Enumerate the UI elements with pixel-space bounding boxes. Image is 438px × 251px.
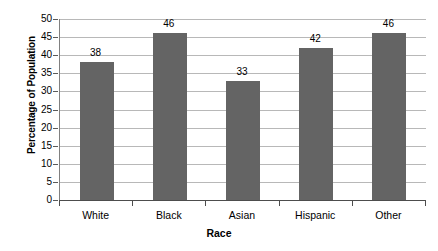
y-tick-mark [53,55,58,56]
y-tick-label: 45 [32,32,52,42]
x-tick-label: Other [343,208,433,222]
y-tick-label: 15 [32,141,52,151]
y-tick-mark [53,91,58,92]
bar-chart: Percentage of Population 504540353025201… [0,0,438,251]
y-tick-mark [53,182,58,183]
y-tick-mark [53,37,58,38]
y-tick-label: 10 [32,159,52,169]
y-tick-label: 0 [32,195,52,205]
x-tick-mark [425,200,426,206]
x-tick-mark [205,200,206,206]
bar-value-label: 33 [212,67,272,77]
bar-value-label: 42 [285,34,345,44]
x-axis-title: Race [0,226,438,240]
bar [80,62,114,200]
y-tick-label: 35 [32,68,52,78]
bar-value-label: 46 [139,19,199,29]
bar [372,33,406,200]
y-tick-mark [53,146,58,147]
x-tick-mark [279,200,280,206]
y-tick-mark [53,110,58,111]
gridline [60,37,426,38]
plot-area [59,19,426,201]
x-tick-mark [132,200,133,206]
y-tick-mark [53,19,58,20]
y-tick-label: 25 [32,105,52,115]
y-tick-label: 20 [32,123,52,133]
y-tick-label: 40 [32,50,52,60]
y-tick-mark [53,73,58,74]
x-tick-mark [59,200,60,206]
y-tick-mark [53,200,58,201]
bar [299,48,333,200]
bar-value-label: 38 [66,48,126,58]
y-tick-label: 5 [32,177,52,187]
bar [153,33,187,200]
x-tick-mark [352,200,353,206]
y-tick-mark [53,128,58,129]
y-tick-label: 30 [32,86,52,96]
y-tick-label: 50 [32,14,52,24]
bar-value-label: 46 [358,19,418,29]
y-tick-mark [53,164,58,165]
bar [226,81,260,200]
